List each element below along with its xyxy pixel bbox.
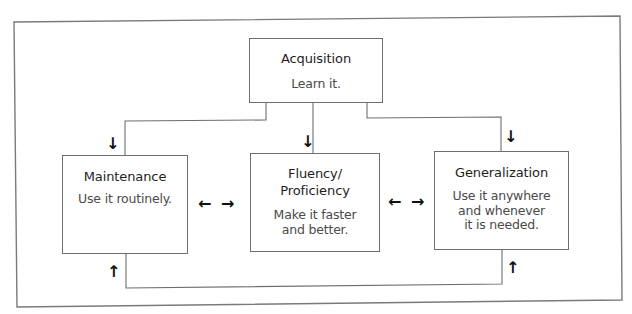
acquisition-text: Learn it. bbox=[250, 77, 382, 92]
connector-feedback-loop bbox=[126, 250, 502, 288]
arrow-up-icon: ↑ bbox=[506, 260, 519, 276]
learning-stages-diagram: Acquisition Learn it. Maintenance Use it… bbox=[0, 0, 632, 314]
generalization-title: Generalization bbox=[435, 164, 568, 181]
generalization-text: Use it anywhere and whenever it is neede… bbox=[435, 189, 568, 233]
fluency-title: Fluency/ Proficiency bbox=[251, 165, 379, 199]
arrow-left-icon: ← bbox=[198, 196, 211, 212]
acquisition-box: Acquisition Learn it. bbox=[249, 38, 383, 103]
fluency-text: Make it faster and better. bbox=[251, 207, 379, 237]
arrow-left-icon: ← bbox=[388, 194, 401, 210]
connector-acq-gen bbox=[367, 102, 501, 151]
arrow-down-icon: ↓ bbox=[504, 129, 517, 145]
acquisition-title: Acquisition bbox=[250, 50, 382, 67]
arrow-down-icon: ↓ bbox=[106, 136, 119, 152]
generalization-box: Generalization Use it anywhere and whene… bbox=[434, 151, 569, 250]
fluency-box: Fluency/ Proficiency Make it faster and … bbox=[250, 153, 380, 252]
maintenance-title: Maintenance bbox=[63, 168, 187, 185]
arrow-up-icon: ↑ bbox=[107, 264, 120, 280]
maintenance-box: Maintenance Use it routinely. bbox=[62, 155, 188, 254]
connector-acq-maint bbox=[125, 103, 266, 155]
arrow-right-icon: → bbox=[411, 194, 424, 210]
arrow-down-icon: ↓ bbox=[301, 134, 314, 150]
maintenance-text: Use it routinely. bbox=[63, 192, 187, 207]
arrow-right-icon: → bbox=[221, 196, 234, 212]
